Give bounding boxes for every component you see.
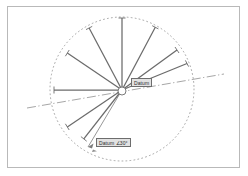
diagram-canvas: Datum Datum ∠30° [0,0,248,176]
spoke-7 [67,90,122,127]
circle-tangent-arrow-icon [92,150,97,152]
spoke-2-tick [175,47,179,53]
spoke-7-tick [65,124,69,130]
spoke-group [54,18,189,141]
spoke-4 [89,28,122,90]
spoke-5 [67,53,122,90]
center-hub-icon [118,87,126,95]
datum-label: Datum [131,78,152,87]
datum-angle-label: Datum ∠30° [96,138,131,147]
technical-drawing [0,0,248,176]
spoke-5-tick [65,50,69,56]
